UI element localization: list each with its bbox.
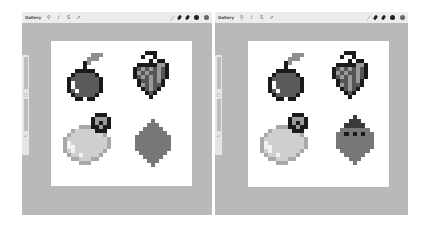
eraser-icon[interactable] [185, 15, 190, 21]
pear-pixel-art [63, 113, 115, 165]
brush-size-slider[interactable] [24, 57, 28, 89]
gallery-button[interactable]: Gallery [25, 15, 41, 20]
toolbar-right-group [172, 15, 209, 21]
brush-size-slider[interactable] [217, 57, 221, 89]
side-toolbar: □ ↶ [22, 55, 29, 155]
smudge-icon[interactable] [373, 15, 378, 21]
apple-pixel-art [268, 53, 304, 101]
toolbar-left-group: Gallery ⚲ ∕ S ➚ [218, 15, 274, 20]
drawing-canvas[interactable] [248, 41, 389, 187]
wrench-icon[interactable]: ⚲ [46, 15, 51, 20]
selection-icon[interactable]: S [259, 15, 264, 20]
move-arrow-icon[interactable]: ➚ [76, 15, 81, 20]
side-toolbar: □ ↶ [215, 55, 222, 155]
smudge-icon[interactable] [177, 15, 182, 21]
undo-icon[interactable]: ↶ [24, 133, 28, 139]
wrench-icon[interactable]: ⚲ [239, 15, 244, 20]
toolbar-left-group: Gallery ⚲ ∕ S ➚ [25, 15, 81, 20]
grapes-pixel-art [332, 51, 368, 99]
top-toolbar: Gallery ⚲ ∕ S ➚ [215, 12, 408, 23]
modify-button[interactable]: □ [24, 91, 28, 97]
opacity-slider[interactable] [24, 99, 28, 131]
brush-icon[interactable] [170, 15, 174, 20]
magic-wand-icon[interactable]: ∕ [249, 15, 254, 20]
drawing-canvas[interactable] [51, 41, 192, 186]
apple-pixel-art [67, 53, 103, 101]
opacity-slider[interactable] [217, 99, 221, 131]
magic-wand-icon[interactable]: ∕ [56, 15, 61, 20]
color-swatch-icon[interactable] [400, 15, 405, 20]
layers-icon[interactable] [390, 15, 395, 20]
move-arrow-icon[interactable]: ➚ [269, 15, 274, 20]
selection-icon[interactable]: S [66, 15, 71, 20]
modify-button[interactable]: □ [217, 91, 221, 97]
color-swatch-icon[interactable] [204, 15, 209, 20]
top-toolbar: Gallery ⚲ ∕ S ➚ [22, 12, 212, 23]
beetle-pixel-art [336, 115, 374, 165]
grapes-pixel-art [133, 51, 169, 99]
leaf-pixel-art [135, 119, 171, 167]
toolbar-right-group [368, 15, 405, 21]
left-canvas-pane: Gallery ⚲ ∕ S ➚ □ ↶ [22, 12, 212, 215]
gallery-button[interactable]: Gallery [218, 15, 234, 20]
right-canvas-pane: Gallery ⚲ ∕ S ➚ □ ↶ [215, 12, 408, 215]
eraser-icon[interactable] [381, 15, 386, 21]
layers-icon[interactable] [194, 15, 199, 20]
brush-icon[interactable] [366, 15, 370, 20]
pear-pixel-art [260, 113, 312, 165]
undo-icon[interactable]: ↶ [217, 133, 221, 139]
